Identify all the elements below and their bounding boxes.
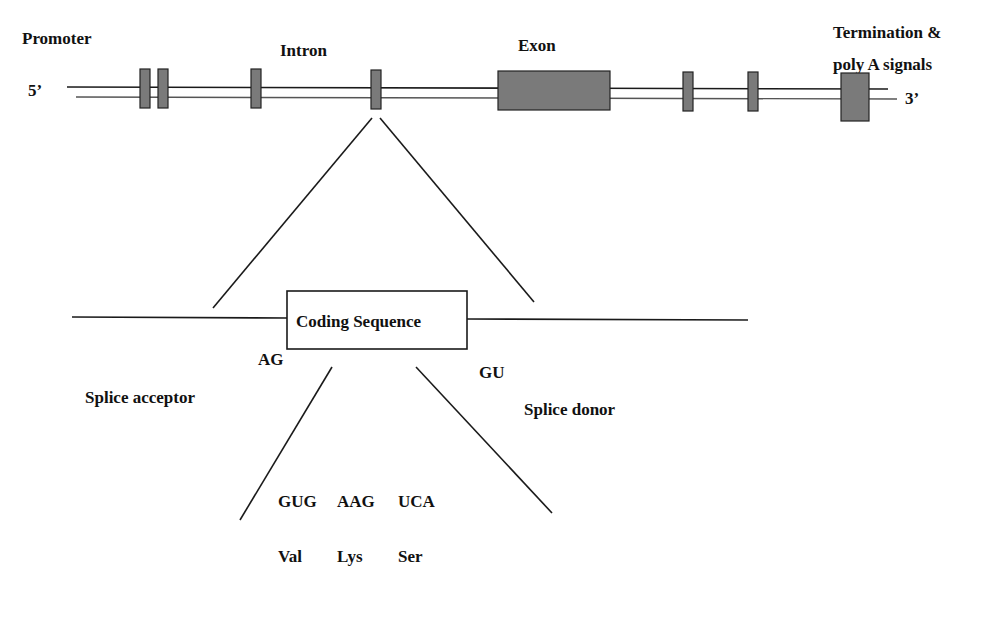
amino-acid: Val (278, 547, 302, 566)
exon-box-highlighted (371, 70, 381, 109)
codon-expansion-line-right (416, 367, 552, 513)
codon: AAG (337, 492, 375, 511)
exon-box-large (498, 71, 610, 110)
donor-site-label: GU (479, 363, 505, 382)
expansion-line-right (380, 118, 534, 302)
exon-box (158, 69, 168, 108)
promoter-label: Promoter (22, 29, 92, 48)
termination-box (841, 73, 869, 121)
expanded-strand-left (72, 317, 287, 318)
coding-sequence-label: Coding Sequence (296, 312, 422, 331)
exon-box (683, 72, 693, 111)
three-prime-label: 3’ (905, 89, 919, 108)
termination-label-line1: Termination & (833, 23, 941, 42)
expanded-strand-right (467, 319, 748, 320)
exon-label: Exon (518, 36, 556, 55)
splice-acceptor-label: Splice acceptor (85, 388, 195, 407)
exon-box (748, 72, 758, 111)
five-prime-label: 5’ (28, 81, 42, 100)
intron-label: Intron (280, 41, 327, 60)
expansion-line-left (213, 118, 372, 308)
termination-label-line2: poly A signals (833, 55, 933, 74)
amino-acid: Lys (337, 547, 363, 566)
amino-acid: Ser (398, 547, 423, 566)
codon: UCA (398, 492, 436, 511)
gene-structure-diagram: Promoter Intron Exon Termination & poly … (0, 0, 991, 617)
exon-box (140, 69, 150, 108)
dna-strand-top (67, 87, 888, 89)
exon-box (251, 69, 261, 108)
splice-donor-label: Splice donor (524, 400, 616, 419)
acceptor-site-label: AG (258, 350, 284, 369)
dna-strand-bottom (76, 97, 897, 99)
codon: GUG (278, 492, 317, 511)
